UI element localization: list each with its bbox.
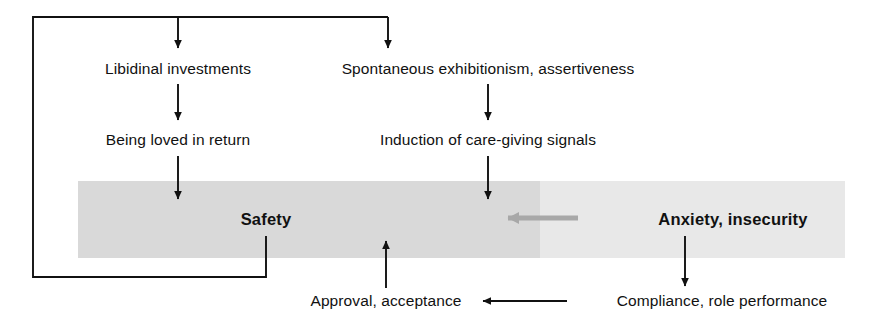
node-libidinal-investments: Libidinal investments bbox=[105, 61, 251, 77]
node-approval-acceptance: Approval, acceptance bbox=[310, 293, 461, 309]
node-safety: Safety bbox=[241, 211, 292, 228]
node-being-loved-in-return: Being loved in return bbox=[106, 132, 250, 148]
node-induction-of-care-giving-signals: Induction of care-giving signals bbox=[380, 132, 596, 148]
diagram-canvas bbox=[0, 0, 873, 327]
safety-band-left bbox=[78, 181, 540, 258]
flow-diagram: Libidinal investments Spontaneous exhibi… bbox=[0, 0, 873, 327]
node-compliance-role-performance: Compliance, role performance bbox=[617, 293, 827, 309]
node-spontaneous-exhibitionism: Spontaneous exhibitionism, assertiveness bbox=[342, 61, 635, 77]
node-anxiety-insecurity: Anxiety, insecurity bbox=[658, 211, 807, 228]
